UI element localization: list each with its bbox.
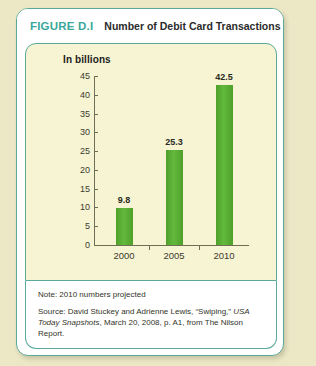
figure-footer: Note: 2010 numbers projected Source: Dav… — [25, 281, 277, 349]
source-prefix: Source: David Stuckey and Adrienne Lewis… — [38, 307, 233, 316]
y-tick-mark — [94, 114, 98, 115]
x-tick-mark — [149, 245, 150, 250]
x-tick-mark — [199, 245, 200, 250]
figure-title: Number of Debit Card Transactions — [104, 20, 280, 32]
y-tick-mark — [94, 226, 98, 227]
bar-value-label: 42.5 — [215, 72, 233, 82]
x-axis-label: 2005 — [163, 250, 184, 261]
bar — [166, 150, 183, 245]
figure-note: Note: 2010 numbers projected — [38, 290, 264, 299]
y-tick-mark — [94, 170, 98, 171]
y-tick-mark — [94, 76, 98, 77]
x-axis-label: 2010 — [213, 250, 234, 261]
y-tick-label: 45 — [56, 71, 90, 81]
y-tick-label: 30 — [56, 127, 90, 137]
y-tick-label: 0 — [56, 240, 90, 250]
figure-card: FIGURE D.I Number of Debit Card Transact… — [16, 8, 284, 356]
figure-number-label: FIGURE D.I — [30, 20, 93, 32]
y-tick-mark — [94, 207, 98, 208]
y-tick-label: 35 — [56, 109, 90, 119]
bar — [116, 208, 133, 245]
x-axis-line — [94, 245, 249, 246]
y-tick-label: 5 — [56, 221, 90, 231]
y-tick-label: 25 — [56, 146, 90, 156]
bar — [216, 85, 233, 245]
plot-area: 454035302520151050 9.825.342.5 200020052… — [56, 76, 256, 272]
y-tick-label: 40 — [56, 90, 90, 100]
y-axis-line — [94, 76, 95, 246]
y-tick-label: 15 — [56, 184, 90, 194]
y-tick-mark — [94, 132, 98, 133]
figure-source: Source: David Stuckey and Adrienne Lewis… — [38, 307, 264, 339]
y-tick-label: 20 — [56, 165, 90, 175]
x-axis-label: 2000 — [113, 250, 134, 261]
figure-header: FIGURE D.I Number of Debit Card Transact… — [17, 9, 283, 43]
y-tick-label: 10 — [56, 202, 90, 212]
bar-value-label: 25.3 — [165, 137, 183, 147]
y-tick-mark — [94, 245, 98, 246]
y-tick-mark — [94, 95, 98, 96]
y-tick-mark — [94, 151, 98, 152]
bar-value-label: 9.8 — [118, 195, 131, 205]
y-tick-mark — [94, 189, 98, 190]
chart-units-label: In billions — [63, 54, 111, 65]
chart-panel: In billions 454035302520151050 9.825.342… — [25, 43, 277, 281]
